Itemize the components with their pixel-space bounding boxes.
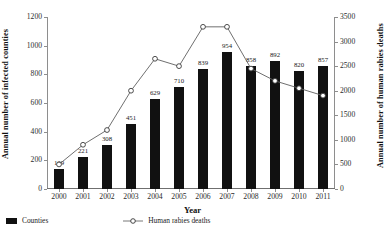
legend-item-human-rabies-deaths: Human rabies deaths xyxy=(123,216,210,225)
x-axis-tick-label: 2011 xyxy=(310,193,336,201)
line-marker xyxy=(321,93,326,98)
line-marker xyxy=(153,56,158,61)
x-axis-tick-label: 2006 xyxy=(190,193,216,201)
right-axis-tick xyxy=(335,164,338,165)
x-axis-tick-label: 2005 xyxy=(166,193,192,201)
right-axis-tick-label: 2000 xyxy=(340,87,355,95)
legend-label-counties: Counties xyxy=(22,216,48,225)
x-axis-tick-label: 2000 xyxy=(46,193,72,201)
right-axis-tick-label: 1500 xyxy=(340,111,355,119)
line-marker xyxy=(129,88,134,93)
right-axis-tick xyxy=(335,91,338,92)
legend-swatch-line-circle-icon xyxy=(123,217,143,225)
right-axis-tick xyxy=(335,66,338,67)
right-axis-tick xyxy=(335,140,338,141)
legend-item-counties: Counties xyxy=(6,216,48,225)
line-marker xyxy=(273,78,278,83)
chart-figure: Annual number of infected counties Annua… xyxy=(0,0,385,233)
left-axis-tick-label: 0 xyxy=(38,185,42,193)
right-axis-tick-label: 3500 xyxy=(340,13,355,21)
x-axis-tick-label: 2008 xyxy=(238,193,264,201)
chart-legend: Counties Human rabies deaths xyxy=(6,216,210,225)
left-axis-tick xyxy=(44,189,47,190)
left-axis-tick-label: 1000 xyxy=(27,42,42,50)
x-axis-tick-label: 2010 xyxy=(286,193,312,201)
legend-swatch-square-icon xyxy=(6,218,17,224)
right-axis-tick xyxy=(335,17,338,18)
left-axis-tick-label: 200 xyxy=(31,156,42,164)
line-marker xyxy=(177,64,182,69)
line-marker xyxy=(225,24,230,29)
x-axis-tick-label: 2007 xyxy=(214,193,240,201)
left-axis-tick-label: 600 xyxy=(31,99,42,107)
left-axis-title: Annual number of infected counties xyxy=(1,8,10,180)
line-path xyxy=(59,27,323,165)
left-axis-tick-label: 800 xyxy=(31,70,42,78)
right-axis-tick-label: 1000 xyxy=(340,136,355,144)
right-axis-tick xyxy=(335,189,338,190)
legend-label-human-rabies-deaths: Human rabies deaths xyxy=(148,216,210,225)
line-marker xyxy=(57,162,62,167)
right-axis-tick xyxy=(335,115,338,116)
right-axis-tick-label: 3000 xyxy=(340,38,355,46)
left-axis-tick-label: 400 xyxy=(31,128,42,136)
right-axis-tick xyxy=(335,42,338,43)
line-series-human-rabies-deaths xyxy=(47,17,335,189)
right-axis-tick-label: 2500 xyxy=(340,62,355,70)
x-axis-tick-label: 2002 xyxy=(94,193,120,201)
line-marker xyxy=(81,142,86,147)
line-marker xyxy=(297,86,302,91)
x-axis-tick-label: 2001 xyxy=(70,193,96,201)
x-axis-title: Year xyxy=(0,205,385,215)
right-axis-tick-label: 0 xyxy=(340,185,344,193)
right-axis-tick-label: 500 xyxy=(340,160,351,168)
right-axis-title: Annual number of human rabies deaths xyxy=(376,8,385,184)
line-marker xyxy=(249,66,254,71)
x-axis-tick-label: 2004 xyxy=(142,193,168,201)
x-axis-tick-label: 2003 xyxy=(118,193,144,201)
left-axis-tick-label: 1200 xyxy=(27,13,42,21)
line-marker xyxy=(201,24,206,29)
line-marker xyxy=(105,128,110,133)
plot-area: 020040060080010001200 050010001500200025… xyxy=(47,17,335,189)
x-axis-tick-label: 2009 xyxy=(262,193,288,201)
